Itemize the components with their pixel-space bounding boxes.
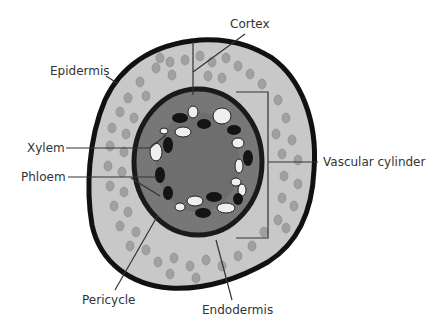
label-xylem: Xylem (27, 141, 65, 155)
label-pericycle: Pericycle (82, 293, 135, 307)
label-epidermis: Epidermis (50, 64, 110, 78)
label-vascular-cylinder: Vascular cylinder (323, 155, 425, 169)
label-endodermis: Endodermis (202, 303, 273, 317)
label-cortex: Cortex (230, 17, 270, 31)
label-phloem: Phloem (21, 170, 66, 184)
